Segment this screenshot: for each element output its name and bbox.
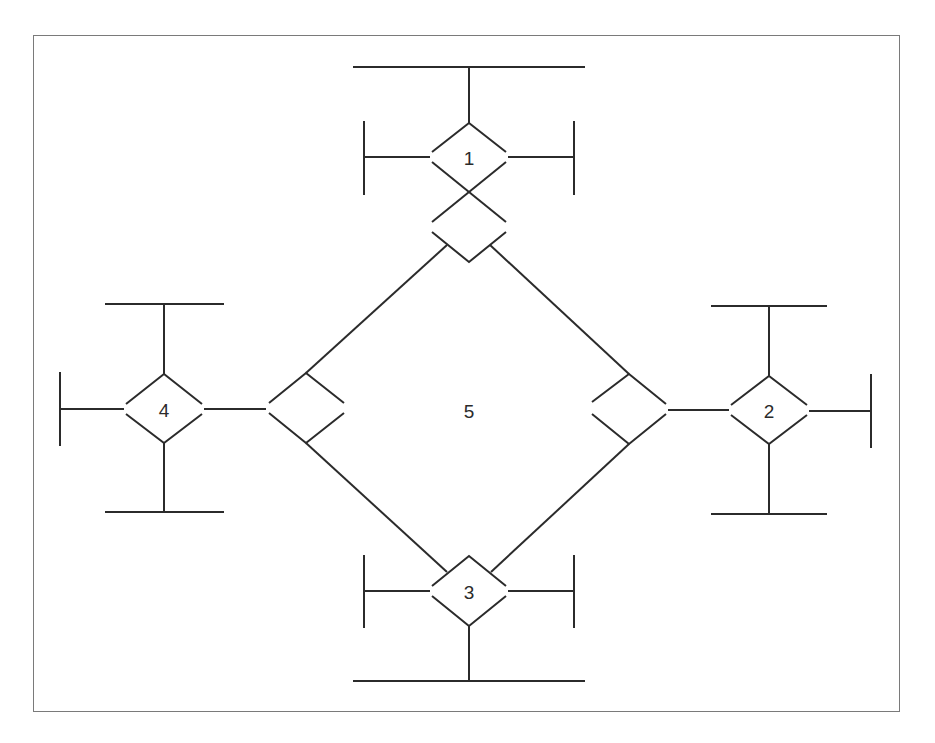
node-5-edge-top-left xyxy=(306,245,447,373)
node-4-label: 4 xyxy=(159,400,170,421)
node-2-group: 2 xyxy=(668,306,871,514)
node-3-group: 3 xyxy=(353,555,585,681)
node-2-label: 2 xyxy=(764,401,775,422)
node-5-edge-bottom-left xyxy=(306,443,447,572)
node-5-label: 5 xyxy=(464,401,475,422)
node-4-group: 4 xyxy=(60,304,266,512)
node-5-left-connector-top xyxy=(269,373,344,403)
node-5-right-connector-top xyxy=(592,374,666,404)
node-1-label: 1 xyxy=(464,148,475,169)
network-diagram: 1 5 4 xyxy=(0,0,935,743)
node-5-left-connector-bottom xyxy=(269,413,344,443)
node-5-right-connector-bottom xyxy=(592,414,666,444)
node-5-edge-bottom-right xyxy=(491,444,629,572)
node-1-group: 1 xyxy=(353,67,585,222)
node-5-group: 5 xyxy=(269,232,666,572)
node-3-label: 3 xyxy=(464,582,475,603)
node-5-top-connector xyxy=(432,232,506,262)
node-5-edge-top-right xyxy=(490,245,629,374)
